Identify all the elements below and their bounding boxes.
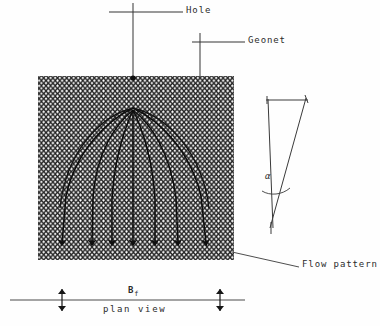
diagram-canvas (0, 0, 380, 326)
geonet-leader (192, 33, 245, 78)
label-plan-view: plan view (103, 305, 166, 314)
label-width-bf: Bf (128, 286, 139, 298)
geonet-flow-diagram: Hole Geonet Flow pattern Bf plan view α (0, 0, 380, 326)
label-flow-pattern: Flow pattern (302, 260, 378, 269)
flow-pattern-leader (232, 252, 299, 267)
width-subscript: f (134, 290, 139, 298)
label-hole: Hole (186, 6, 211, 15)
angle-diagram (262, 95, 308, 234)
hole-marker (130, 75, 135, 80)
label-angle-alpha: α (265, 172, 271, 181)
label-geonet: Geonet (248, 36, 286, 45)
hole-leader (109, 3, 183, 78)
